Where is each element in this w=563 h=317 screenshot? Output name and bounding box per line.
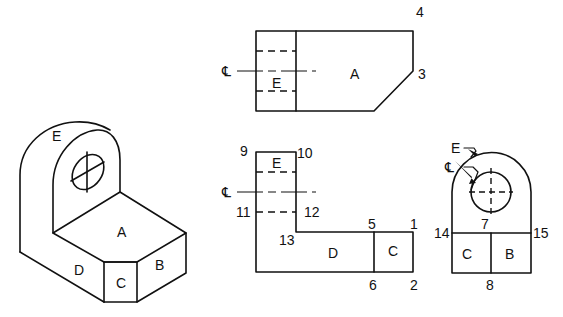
front-point-6: 6 <box>369 277 377 293</box>
iso-base-left-edge <box>20 252 104 302</box>
front-label-c: C <box>388 243 398 259</box>
iso-label-a: A <box>117 224 127 240</box>
front-point-12: 12 <box>304 204 320 220</box>
drawing-canvas: E A D C B ℄ E A 4 3 ℄ E D C 9 10 11 12 1… <box>0 0 563 317</box>
front-point-9: 9 <box>240 143 248 159</box>
side-point-8: 8 <box>486 277 494 293</box>
iso-label-b: B <box>155 257 164 273</box>
iso-label-c: C <box>116 275 126 291</box>
side-label-c: C <box>462 246 472 262</box>
front-point-5: 5 <box>368 216 376 232</box>
side-point-14: 14 <box>434 225 450 241</box>
side-point-7: 7 <box>481 216 489 232</box>
top-label-a: A <box>350 66 360 82</box>
front-point-2: 2 <box>410 277 418 293</box>
side-leader-label-e: E <box>451 140 460 156</box>
top-outline <box>256 31 413 111</box>
iso-label-d: D <box>74 262 84 278</box>
front-centerline-symbol: ℄ <box>221 184 231 200</box>
side-leader-centerline-arrow <box>455 161 476 184</box>
side-point-15: 15 <box>533 225 549 241</box>
top-centerline-symbol: ℄ <box>221 63 231 79</box>
front-point-13: 13 <box>279 232 295 248</box>
iso-upright-back-outline <box>20 122 110 252</box>
iso-label-e: E <box>52 128 61 144</box>
front-label-e: E <box>272 155 281 171</box>
side-leader-label-centerline: ℄ <box>444 159 454 175</box>
isometric-view: E A D C B <box>20 122 186 302</box>
top-view: ℄ E A 4 3 <box>221 4 426 111</box>
side-view: E ℄ C B 7 14 15 8 <box>434 140 549 293</box>
front-point-10: 10 <box>297 145 313 161</box>
side-label-b: B <box>505 246 514 262</box>
top-point-3: 3 <box>418 66 426 82</box>
front-point-11: 11 <box>236 204 251 220</box>
front-view: ℄ E D C 9 10 11 12 13 5 1 6 2 <box>221 143 418 293</box>
front-point-1: 1 <box>410 216 418 232</box>
front-label-d: D <box>328 245 338 261</box>
top-label-e: E <box>272 75 281 91</box>
top-point-4: 4 <box>416 4 424 20</box>
